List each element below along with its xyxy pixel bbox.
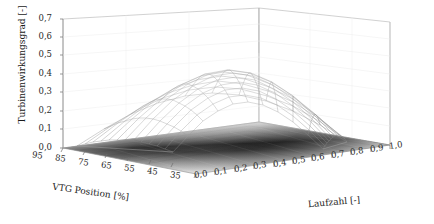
y-tick-4: 0,4 [272,158,287,168]
z-tick-3: 0,4 [26,69,52,78]
x-tick-5: 45 [146,166,158,176]
x-tick-2: 75 [77,157,89,167]
surface-haze [95,48,325,152]
z-tick-1: 0,6 [26,32,52,41]
y-tick-8: 0,8 [349,146,364,156]
z-axis-ticks [60,19,63,148]
z-tick-4: 0,3 [26,87,52,96]
z-tick-0: 0,7 [26,14,52,23]
y-tick-3: 0,3 [252,160,267,170]
z-tick-2: 0,5 [26,50,52,59]
z-tick-5: 0,2 [26,106,52,115]
surface-chart-figure: 0,7 0,6 0,5 0,4 0,3 0,2 0,1 0,0 95 85 75… [0,0,434,224]
x-tick-3: 65 [100,160,112,170]
x-tick-1: 85 [54,153,66,163]
y-tick-2: 0,2 [233,163,248,173]
x-tick-6: 35 [169,170,181,180]
y-tick-0: 0,0 [193,169,208,179]
z-axis-title: Turbinenwirkungsgrad [-] [18,5,27,125]
x-tick-0: 95 [31,150,43,160]
y-tick-7: 0,7 [330,149,345,159]
y-tick-5: 0,5 [291,155,306,165]
z-tick-6: 0,1 [26,124,52,133]
y-tick-1: 0,1 [213,166,228,176]
y-tick-9: 0,9 [369,143,384,153]
y-tick-6: 0,6 [310,152,325,162]
x-tick-4: 55 [123,163,135,173]
y-tick-10: 1,0 [388,140,403,150]
